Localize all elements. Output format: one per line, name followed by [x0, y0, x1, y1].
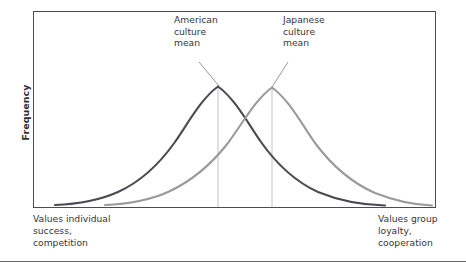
x-axis-note-right: Values group loyalty, cooperation: [378, 213, 438, 250]
annotation-japanese-culture-mean: Japanese culture mean: [283, 14, 325, 49]
x-axis-note-left: Values individual success, competition: [33, 213, 111, 250]
annotation-american-culture-mean: American culture mean: [174, 14, 218, 49]
culture-values-distribution-figure: Frequency American culture mean Japanese…: [0, 0, 466, 270]
bottom-divider: [0, 261, 466, 262]
plot-frame: [33, 11, 436, 208]
y-axis-label: Frequency: [20, 68, 31, 158]
